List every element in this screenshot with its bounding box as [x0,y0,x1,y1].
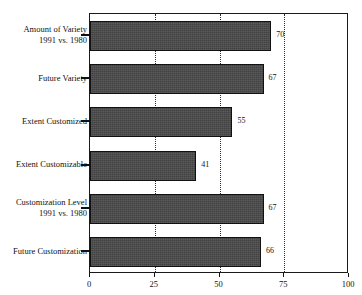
x-axis-tick [154,273,155,277]
category-label-line: Amount of Variety [23,24,87,35]
x-axis-tick [219,273,220,277]
bar-texture [91,22,270,50]
x-axis-tick [89,273,90,277]
x-axis-tick [283,273,284,277]
bar [90,107,232,137]
plot-inner [90,14,347,272]
bar-value-label: 66 [266,247,274,255]
bar-texture [91,108,231,136]
category-label: Future Customization [13,246,87,257]
bar-texture [91,65,263,93]
bar-value-label: 41 [201,161,209,169]
x-axis-tick-label: 0 [87,279,91,289]
gridline-50 [220,14,221,272]
category-label: Customization Level1991 vs. 1980 [16,197,87,219]
bar [90,64,264,94]
bar [90,194,264,224]
gridline-25 [155,14,156,272]
bar-texture [91,195,263,223]
plot-area [89,13,348,273]
category-label-line: Extent Customized [22,116,87,127]
x-axis-tick-label: 75 [279,279,288,289]
gridline-75 [284,14,285,272]
bar [90,237,261,267]
bar-value-label: 67 [269,204,277,212]
bar-texture [91,152,195,180]
category-label-line: Future Variety [38,73,87,84]
category-label-line: Future Customization [13,246,87,257]
category-label: Future Variety [38,73,87,84]
category-label-line: 1991 vs. 1980 [16,208,87,219]
bar [90,151,196,181]
bar-texture [91,238,260,266]
bar-value-label: 67 [269,74,277,82]
x-axis-tick-label: 25 [150,279,159,289]
category-label-line: Extent Customizable [16,159,87,170]
category-label: Extent Customizable [16,159,87,170]
x-axis-tick-label: 50 [214,279,223,289]
x-axis-tick-label: 100 [342,279,355,289]
category-label: Amount of Variety1991 vs. 1980 [23,24,87,46]
bar-value-label: 70 [276,31,284,39]
category-label-line: Customization Level [16,197,87,208]
x-axis-tick [348,273,349,277]
category-label: Extent Customized [22,116,87,127]
bar-value-label: 55 [237,117,245,125]
category-label-line: 1991 vs. 1980 [23,35,87,46]
bar-chart: 70Amount of Variety1991 vs. 198067Future… [0,0,362,295]
bar [90,21,271,51]
